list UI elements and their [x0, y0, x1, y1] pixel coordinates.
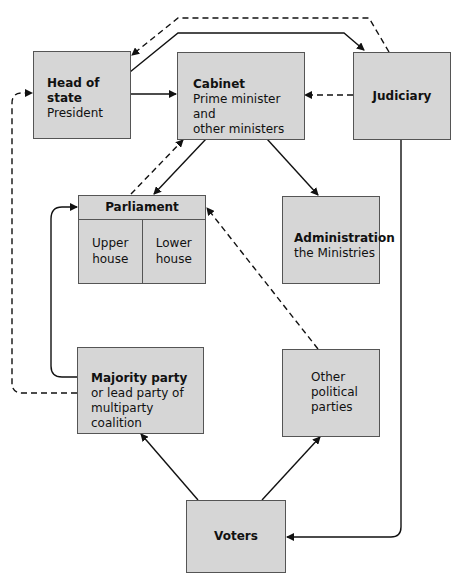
- administration-title: Administration: [294, 231, 395, 246]
- head-of-state-title: Head of state: [47, 76, 130, 106]
- lower-house: Lowerhouse: [143, 219, 206, 283]
- cabinet-subtitle-line2: other ministers: [193, 122, 304, 137]
- administration-subtitle: the Ministries: [294, 246, 395, 261]
- other-parties-line2: political: [311, 385, 358, 400]
- parliament-title: Parliament: [79, 196, 205, 220]
- edge-cabinet-to-administration: [267, 139, 318, 195]
- parliament-box: Parliament Upperhouse Lowerhouse: [78, 195, 206, 284]
- head-of-state-box: Head of state President: [33, 51, 131, 139]
- other-parties-box: Other political parties: [282, 349, 380, 437]
- upper-house: Upperhouse: [79, 219, 143, 283]
- upper-house-line1: Upper: [92, 236, 128, 250]
- lower-house-line2: house: [156, 252, 192, 266]
- cabinet-title: Cabinet: [193, 77, 304, 92]
- edge-cabinet-to-parliament: [154, 139, 206, 194]
- cabinet-box: Cabinet Prime minister and other ministe…: [177, 52, 305, 140]
- judiciary-box: Judiciary: [353, 52, 451, 140]
- majority-party-subtitle-line2: multiparty coalition: [91, 401, 203, 431]
- voters-box: Voters: [186, 500, 286, 573]
- majority-party-box: Majority party or lead party of multipar…: [77, 347, 204, 434]
- edge-majority-to-parliament: [51, 207, 77, 377]
- edge-voters-to-majority: [141, 434, 198, 500]
- other-parties-line3: parties: [311, 400, 358, 415]
- lower-house-line1: Lower: [156, 236, 192, 250]
- edge-parliament-to-cabinet: [131, 140, 183, 194]
- cabinet-subtitle-line1: Prime minister and: [193, 92, 304, 122]
- upper-house-line2: house: [92, 252, 128, 266]
- administration-box: Administration the Ministries: [282, 196, 380, 284]
- majority-party-title: Majority party: [91, 371, 203, 386]
- voters-title: Voters: [214, 529, 258, 544]
- edge-judiciary-to-head: [132, 18, 389, 55]
- judiciary-title: Judiciary: [373, 89, 432, 104]
- head-of-state-subtitle: President: [47, 106, 130, 121]
- majority-party-subtitle-line1: or lead party of: [91, 386, 203, 401]
- other-parties-line1: Other: [311, 370, 358, 385]
- edge-voters-to-others: [262, 437, 320, 500]
